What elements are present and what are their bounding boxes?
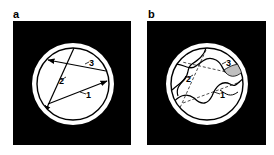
panel-b-label-2: 2 <box>186 74 191 84</box>
panel-a-label-3: 3 <box>89 58 94 68</box>
panel-a-label-1: 1 <box>86 90 91 100</box>
figure-canvas: 3 2 1 3 2 1 <box>0 0 274 155</box>
panel-b-label-1: 1 <box>220 90 225 100</box>
panel-a: 3 2 1 <box>13 21 131 145</box>
panel-b-label-3: 3 <box>226 58 231 68</box>
panel-a-label-2: 2 <box>59 76 64 86</box>
panel-b: 3 2 1 <box>147 21 266 145</box>
